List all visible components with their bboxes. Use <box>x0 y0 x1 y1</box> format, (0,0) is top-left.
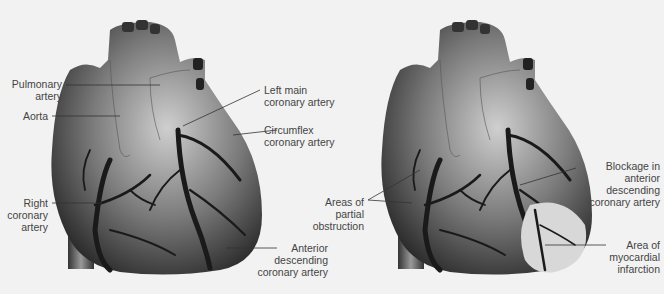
label-aorta: Aorta <box>0 110 48 122</box>
label-anterior-descending-coronary-artery: Anterior descending coronary artery <box>240 242 328 278</box>
label-circumflex-coronary-artery: Circumflex coronary artery <box>264 124 335 148</box>
label-areas-of-partial-obstruction: Areas of partial obstruction <box>300 196 364 232</box>
normal-heart-illustration <box>51 20 262 275</box>
blocked-heart-illustration <box>381 20 592 275</box>
label-area-of-myocardial-infarction: Area of myocardial infarction <box>590 239 660 275</box>
label-blockage-in-anterior-descending: Blockage in anterior descending coronary… <box>570 160 660 208</box>
label-pulmonary-artery: Pulmonary artery <box>0 78 62 102</box>
label-left-main-coronary-artery: Left main coronary artery <box>264 84 335 108</box>
label-right-coronary-artery: Right coronary artery <box>0 197 48 233</box>
